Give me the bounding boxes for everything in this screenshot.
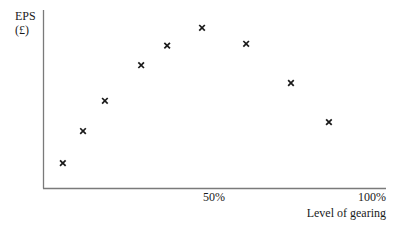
- data-point-x-marker-icon: [164, 43, 170, 49]
- x-tick-label-100: 100%: [358, 190, 386, 204]
- data-point-x-marker-icon: [243, 41, 249, 47]
- data-markers: [60, 25, 332, 166]
- data-point-x-marker-icon: [288, 80, 294, 86]
- data-point-x-marker-icon: [199, 25, 205, 31]
- data-point-x-marker-icon: [60, 160, 66, 166]
- x-axis-label: Level of gearing: [307, 206, 386, 220]
- data-point-x-marker-icon: [138, 62, 144, 68]
- x-tick-label-50: 50%: [203, 190, 225, 204]
- data-point-x-marker-icon: [326, 119, 332, 125]
- data-point-x-marker-icon: [80, 128, 86, 134]
- data-point-x-marker-icon: [102, 98, 108, 104]
